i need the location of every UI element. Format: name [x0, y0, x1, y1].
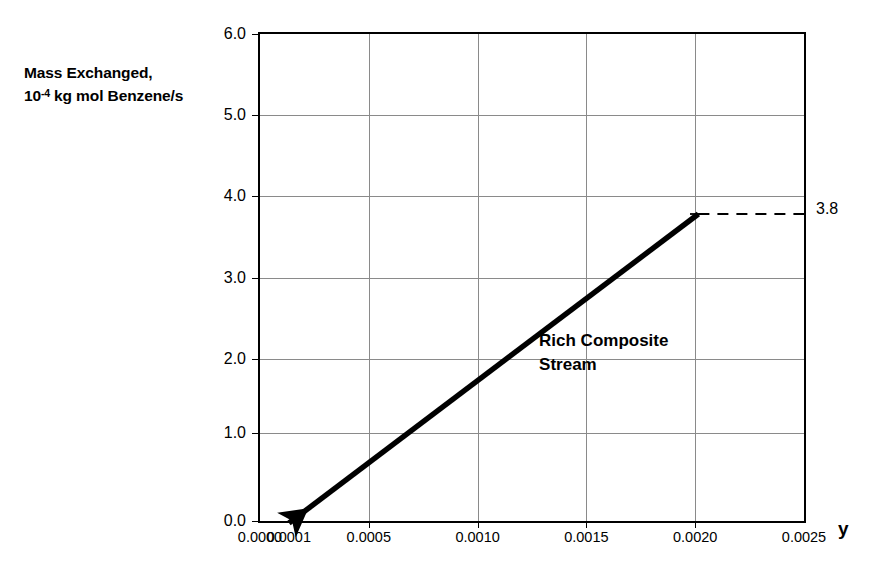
tick-y-4 — [252, 196, 260, 197]
series-layer — [260, 34, 808, 525]
chart-figure: Mass Exchanged, 10-4 kg mol Benzene/s 6.… — [0, 0, 884, 585]
y-axis-title-line2: 10-4 kg mol Benzene/s — [24, 85, 254, 108]
x-tick-label-0010: 0.0010 — [455, 529, 499, 545]
y-tick-label-2: 2.0 — [224, 350, 246, 368]
y-axis-title-line1: Mass Exchanged, — [24, 62, 254, 85]
x-tick-label-0020: 0.0020 — [673, 529, 717, 545]
plot-area: 6.0 5.0 4.0 3.0 2.0 1.0 0.0 0.0000 0.000… — [258, 32, 806, 523]
x-tick-label-0001: 0.0001 — [267, 529, 311, 545]
series-label: Rich Composite Stream — [539, 329, 668, 377]
y-axis-title-exponent: -4 — [41, 87, 50, 99]
y-tick-label-0: 0.0 — [224, 512, 246, 530]
y-axis-title-units: kg mol Benzene/s — [50, 87, 184, 104]
tick-y-3 — [252, 278, 260, 279]
y-axis-title: Mass Exchanged, 10-4 kg mol Benzene/s — [24, 62, 254, 108]
y-tick-label-6: 6.0 — [224, 25, 246, 43]
series-label-line1: Rich Composite — [539, 329, 668, 353]
endpoint-value-label: 3.8 — [816, 200, 838, 218]
x-tick-label-0025: 0.0025 — [782, 529, 826, 545]
tick-y-1 — [252, 433, 260, 434]
x-tick-label-0015: 0.0015 — [564, 529, 608, 545]
y-axis-title-base: 10 — [24, 87, 41, 104]
y-tick-label-5: 5.0 — [224, 106, 246, 124]
y-tick-label-3: 3.0 — [224, 269, 246, 287]
tick-y-0 — [252, 521, 260, 522]
tick-y-6 — [252, 34, 260, 35]
series-label-line2: Stream — [539, 353, 668, 377]
tick-y-2 — [252, 359, 260, 360]
y-tick-label-4: 4.0 — [224, 187, 246, 205]
y-tick-label-1: 1.0 — [224, 424, 246, 442]
x-axis-title: y — [838, 518, 849, 540]
x-tick-label-0005: 0.0005 — [347, 529, 391, 545]
tick-y-5 — [252, 115, 260, 116]
